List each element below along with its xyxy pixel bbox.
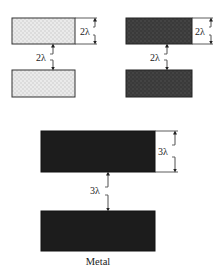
left-bottom-rect <box>12 70 75 97</box>
metal-layer-panel: 3λ 3λ Metal <box>41 131 178 267</box>
metal-top-rect <box>41 131 155 172</box>
width-label: 3λ <box>158 146 168 157</box>
metal-bottom-rect <box>41 211 155 251</box>
design-rule-diagram: 2λ 2λ 2λ 2λ 3λ <box>0 0 221 273</box>
right-bottom-rect <box>126 70 192 97</box>
width-label: 2λ <box>80 26 90 37</box>
left-layer-panel: 2λ 2λ <box>12 18 97 97</box>
left-top-rect <box>12 18 75 44</box>
spacing-label: 2λ <box>36 52 46 63</box>
width-label: 2λ <box>195 26 205 37</box>
metal-caption: Metal <box>86 256 111 267</box>
right-layer-panel: 2λ 2λ <box>126 18 213 97</box>
spacing-label: 2λ <box>150 52 160 63</box>
spacing-label: 3λ <box>90 185 100 196</box>
right-top-rect <box>126 18 192 44</box>
